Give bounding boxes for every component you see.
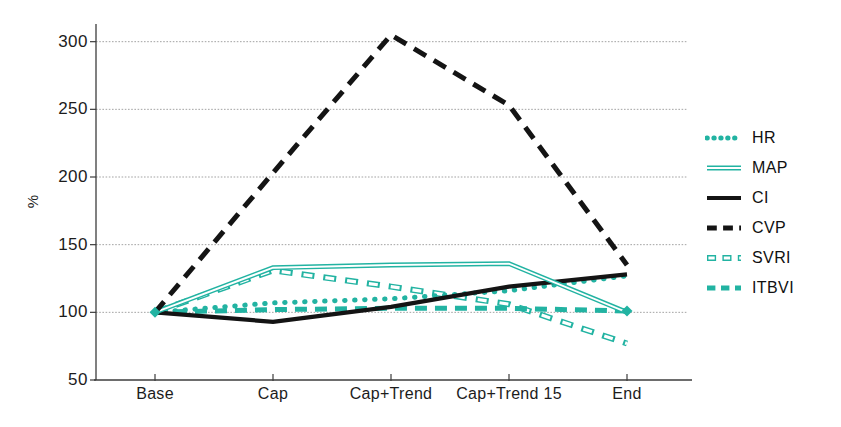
- y-tick-label: 150: [30, 235, 88, 255]
- x-tick-label: Cap: [211, 385, 335, 403]
- gridlines: [90, 42, 688, 380]
- endpoint-diamond-marker: [622, 305, 633, 316]
- legend-item-map: MAP: [705, 153, 794, 183]
- hr-legend-symbol: [705, 131, 743, 145]
- legend: HRMAPCICVPSVRIITBVI: [705, 123, 794, 303]
- line-chart-figure: % HRMAPCICVPSVRIITBVI 50100150200250300B…: [0, 0, 841, 427]
- legend-item-cvp: CVP: [705, 213, 794, 243]
- legend-label: ITBVI: [752, 279, 794, 297]
- legend-label: HR: [752, 129, 776, 147]
- x-tick-label: End: [565, 385, 689, 403]
- legend-item-itbvi: ITBVI: [705, 273, 794, 303]
- svri-legend-symbol: [705, 251, 743, 265]
- legend-item-hr: HR: [705, 123, 794, 153]
- ci-legend-symbol: [705, 191, 743, 205]
- itbvi-legend-symbol: [705, 281, 743, 295]
- series-cvp: [155, 35, 627, 312]
- axes: [94, 24, 692, 381]
- y-tick-label: 200: [30, 167, 88, 187]
- legend-label: CVP: [752, 219, 786, 237]
- y-tick-label: 100: [30, 302, 88, 322]
- x-tick-label: Base: [93, 385, 217, 403]
- map-legend-symbol: [705, 161, 743, 175]
- legend-label: MAP: [752, 159, 788, 177]
- legend-item-svri: SVRI: [705, 243, 794, 273]
- legend-label: CI: [752, 189, 769, 207]
- y-tick-label: 50: [30, 370, 88, 390]
- y-tick-label: 250: [30, 99, 88, 119]
- legend-label: SVRI: [752, 249, 791, 267]
- legend-item-ci: CI: [705, 183, 794, 213]
- cvp-legend-symbol: [705, 221, 743, 235]
- y-axis-label: %: [24, 188, 41, 216]
- x-tick-label: Cap+Trend: [329, 385, 453, 403]
- x-tick-label: Cap+Trend 15: [447, 385, 571, 403]
- y-tick-label: 300: [30, 32, 88, 52]
